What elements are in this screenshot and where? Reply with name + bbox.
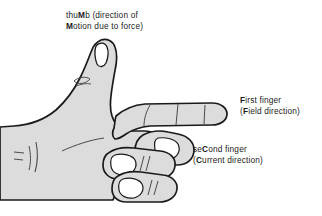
- thumb-label: thuMb (direction of Motion due to force): [66, 10, 143, 31]
- little-finger-nail: [119, 178, 143, 198]
- second-finger-label-line-1: seCond finger: [193, 144, 263, 155]
- hand-rule-diagram: thuMb (direction of Motion due to force)…: [0, 0, 322, 216]
- first-finger-label-line-1: First finger: [240, 95, 300, 106]
- second-finger-label-line-2: (Current direction): [193, 155, 263, 166]
- first-finger-label-line-2: (Field direction): [240, 106, 300, 117]
- thumb-label-line1-prefix: thu: [66, 10, 78, 20]
- second-finger-label-line1-suffix: ond finger: [208, 144, 247, 154]
- second-finger-label-line2-suffix: urrent direction): [202, 155, 263, 165]
- second-finger-label: seCond finger (Current direction): [193, 144, 263, 165]
- thumb-label-line1-suffix: b (direction of: [85, 10, 138, 20]
- first-finger-label-line2-suffix: ield direction): [248, 106, 300, 116]
- thumb-label-line-1: thuMb (direction of: [66, 10, 143, 21]
- thumb-label-line-2: Motion due to force): [66, 21, 143, 32]
- thumb-label-line2-suffix: otion due to force): [73, 21, 143, 31]
- thumb-nail: [95, 43, 108, 66]
- second-finger-label-line1-prefix: se: [193, 144, 202, 154]
- first-finger-label: First finger (Field direction): [240, 95, 300, 116]
- first-finger-label-line1-suffix: irst finger: [245, 95, 281, 105]
